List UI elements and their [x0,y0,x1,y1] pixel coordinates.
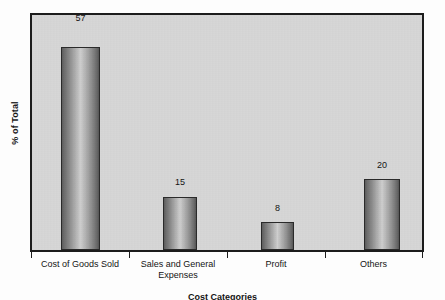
category-label-sales-and-general-expenses: Sales and General Expenses [129,259,227,281]
bar-sales-and-general-expenses[interactable] [163,197,197,250]
bar-value-label-3: 8 [261,203,294,213]
bar-value-label-4: 20 [364,160,400,170]
category-label-others: Others [325,259,422,270]
bar-chart: % of Total 57 15 8 20 Cost of Goods Sold… [0,0,445,300]
axis-tick-2 [227,252,228,258]
bar-cost-of-goods-sold[interactable] [61,47,100,250]
axis-tick-1 [129,252,130,258]
axis-tick-3 [325,252,326,258]
y-axis-title: % of Total [10,73,20,173]
plot-inner [32,15,422,250]
category-label-cost-of-goods-sold: Cost of Goods Sold [31,259,129,270]
bar-others[interactable] [364,179,400,250]
x-axis-title: Cost Categories [0,292,445,300]
axis-tick-start [31,252,32,258]
axis-tick-end [422,252,423,258]
bar-value-label-2: 15 [163,177,197,187]
plot-area [30,13,424,252]
bar-profit[interactable] [261,222,294,250]
category-label-profit: Profit [227,259,325,270]
bar-value-label-1: 57 [61,13,100,23]
